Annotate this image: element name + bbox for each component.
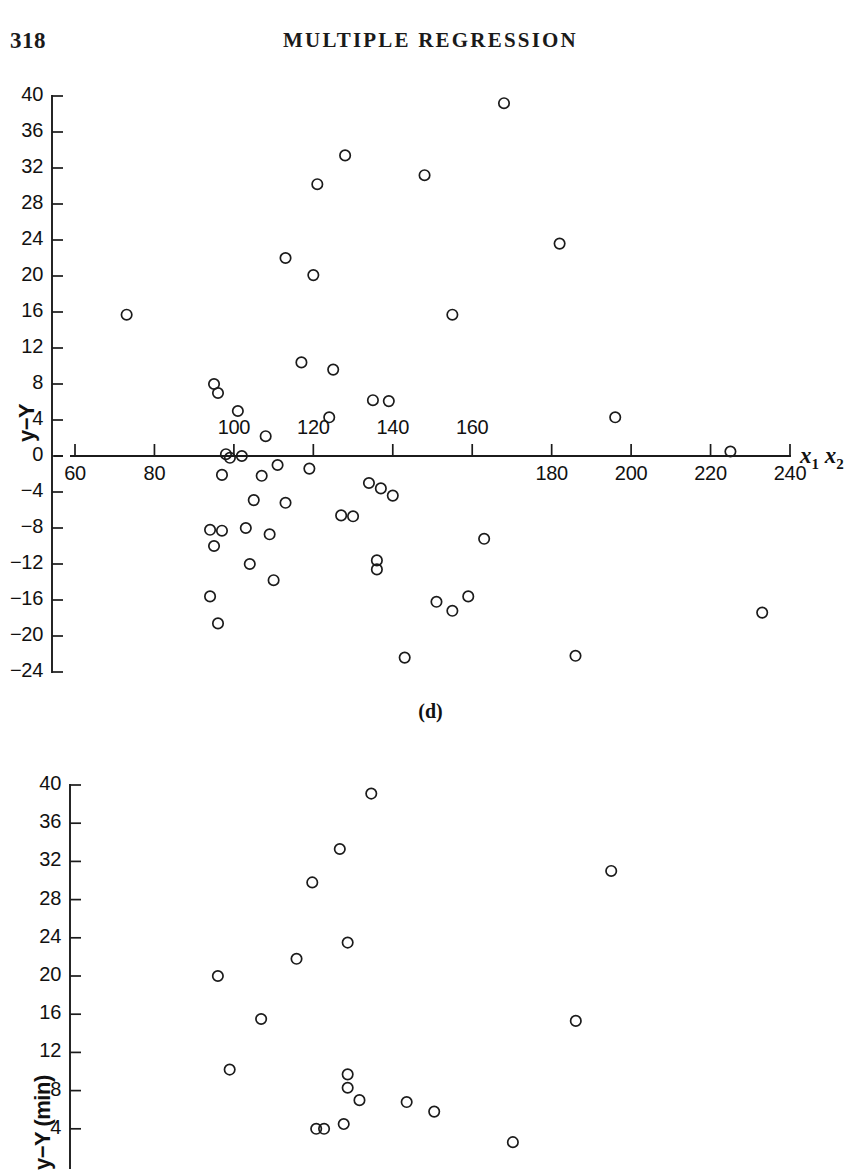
y-tick-label: 32 (0, 848, 61, 871)
y-tick-label: 4 (0, 1116, 61, 1139)
y-tick-label: 32 (0, 155, 43, 178)
x-tick-label: 100 (204, 416, 264, 439)
y-tick-label: 40 (0, 772, 61, 795)
y-tick-label: 20 (0, 963, 61, 986)
x-tick-label: 240 (760, 462, 820, 485)
y-tick-label: −8 (0, 515, 43, 538)
y-tick-label: 24 (0, 227, 43, 250)
y-tick-label: −12 (0, 551, 43, 574)
y-tick-label: −24 (0, 659, 43, 682)
y-tick-label: 8 (0, 371, 43, 394)
y-tick-label: −20 (0, 623, 43, 646)
figure-panel-e: y−Y (min) 403632282420161284 (0, 775, 861, 1168)
panel-caption-d: (d) (0, 700, 861, 723)
y-tick-label: 16 (0, 1001, 61, 1024)
y-tick-label: −4 (0, 479, 43, 502)
figure-panel-d: y−Y x1 x2 4036322824201612840−4−8−12−16−… (0, 88, 861, 708)
y-tick-label: 12 (0, 335, 43, 358)
y-tick-label: 24 (0, 925, 61, 948)
y-tick-label: 12 (0, 1039, 61, 1062)
y-tick-label: −16 (0, 587, 43, 610)
x-tick-label: 220 (681, 462, 741, 485)
scatter-plot-panel-e (0, 775, 861, 1168)
running-head-title: MULTIPLE REGRESSION (0, 28, 861, 53)
x-tick-label: 140 (363, 416, 423, 439)
y-tick-label: 36 (0, 810, 61, 833)
y-tick-label: 36 (0, 119, 43, 142)
x-tick-label: 80 (124, 462, 184, 485)
y-tick-label: 40 (0, 83, 43, 106)
y-tick-label: 8 (0, 1078, 61, 1101)
y-tick-label: 28 (0, 191, 43, 214)
y-tick-label: 4 (0, 407, 43, 430)
y-tick-label: 28 (0, 887, 61, 910)
x-tick-label: 200 (601, 462, 661, 485)
y-tick-label: 0 (0, 443, 43, 466)
x-tick-label: 60 (45, 462, 105, 485)
x-tick-label: 160 (442, 416, 502, 439)
y-tick-label: 20 (0, 263, 43, 286)
x-tick-label: 120 (283, 416, 343, 439)
scatter-plot-panel-d (0, 88, 861, 708)
y-tick-label: 16 (0, 299, 43, 322)
x-tick-label: 180 (522, 462, 582, 485)
page-header: 318 MULTIPLE REGRESSION (0, 28, 861, 62)
